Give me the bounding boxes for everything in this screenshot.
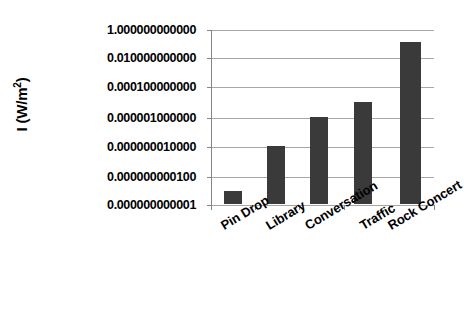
y-tick-label: 0.010000000000 <box>107 51 196 65</box>
y-tick-mark <box>207 147 212 148</box>
bar-pin-drop[interactable] <box>224 191 242 204</box>
y-tick-label: 0.000000010000 <box>107 140 196 154</box>
y-tick-mark <box>207 118 212 119</box>
bar-library[interactable] <box>267 146 285 204</box>
y-axis-title-superscript: 2 <box>12 82 23 87</box>
y-tick-mark <box>207 58 212 59</box>
bar-rock-concert[interactable] <box>400 42 421 204</box>
y-tick-mark <box>207 30 212 31</box>
gridline <box>211 30 434 31</box>
y-tick-label: 0.000001000000 <box>107 111 196 125</box>
x-axis-tick-labels: Pin DropLibraryConversationTrafficRock C… <box>0 206 451 336</box>
y-tick-label: 1.000000000000 <box>107 23 196 37</box>
y-axis-title-text: I (W/m <box>13 88 30 132</box>
y-tick-label: 0.000000000100 <box>107 170 196 184</box>
y-tick-label: 0.000100000000 <box>107 80 196 94</box>
y-tick-mark <box>207 87 212 88</box>
y-axis-title-tail: ) <box>13 78 30 83</box>
y-tick-mark <box>207 177 212 178</box>
plot-area <box>211 30 434 205</box>
y-axis-title: I (W/m2) <box>13 40 30 170</box>
y-axis-tick-labels: 1.0000000000000.0100000000000.0001000000… <box>34 0 200 220</box>
bar-conversation[interactable] <box>310 117 328 204</box>
